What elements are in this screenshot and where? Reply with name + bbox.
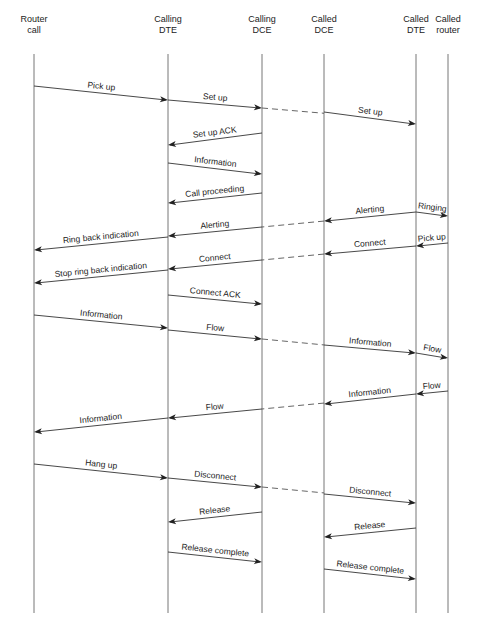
sequence-diagram: RoutercallCallingDTECallingDCECalledDCEC…	[0, 0, 485, 637]
participant-label: Called	[311, 14, 337, 24]
dashed-continuation	[262, 339, 324, 345]
message-label: Alerting	[355, 203, 385, 216]
participant-headers: RoutercallCallingDTECallingDCECalledDCEC…	[20, 14, 460, 35]
message-arrow: Flow	[416, 380, 448, 397]
dashed-continuation	[262, 487, 324, 493]
message-label: Release	[354, 519, 386, 532]
participant-label: DTE	[407, 25, 425, 35]
lifelines	[34, 54, 448, 613]
message-label: Connect	[198, 251, 231, 264]
message-label: Flow	[205, 401, 225, 413]
message-arrow: Set up	[168, 91, 324, 113]
dashed-continuation	[262, 108, 324, 113]
message-arrow: Call proceeding	[168, 183, 262, 205]
participant-called-dce: CalledDCE	[311, 14, 337, 35]
message-arrow: Disconnect	[324, 484, 416, 505]
participant-label: Calling	[248, 14, 276, 24]
message-arrow: Ring back indication	[34, 228, 168, 252]
message-arrow: Information	[34, 411, 168, 434]
message-label: Disconnect	[349, 484, 392, 498]
message-arrow: Information	[324, 385, 416, 406]
message-arrow: Connect ACK	[168, 285, 262, 306]
message-label: Connect	[354, 237, 387, 250]
message-arrow: Connect	[324, 237, 416, 257]
message-arrow: Stop ring back indication	[34, 260, 168, 285]
message-label: Disconnect	[194, 469, 237, 483]
participant-calling-dce: CallingDCE	[248, 14, 276, 35]
message-arrow: Flow	[168, 322, 324, 345]
message-arrow: Set up	[324, 104, 416, 125]
participant-label: call	[27, 25, 41, 35]
message-label: Release	[199, 503, 231, 516]
message-arrow: Information	[324, 335, 416, 355]
participant-router-call: Routercall	[20, 14, 47, 35]
participant-label: Calling	[154, 14, 182, 24]
dashed-continuation	[262, 403, 324, 409]
message-arrow: Connect	[168, 251, 324, 271]
message-label: Hang up	[85, 457, 118, 470]
message-label: Flow	[422, 380, 442, 392]
message-arrow: Release complete	[324, 558, 416, 581]
message-label: Alerting	[200, 218, 230, 231]
dashed-continuation	[262, 254, 324, 260]
message-label: Release complete	[181, 541, 250, 558]
participant-calling-dte: CallingDTE	[154, 14, 182, 35]
message-label: Set up	[203, 91, 229, 103]
message-arrow: Pick up	[416, 231, 448, 248]
participant-called-dte: CalledDTE	[403, 14, 429, 35]
message-arrow: Release	[168, 503, 262, 524]
message-label: Pick up	[417, 231, 446, 244]
message-label: Flow	[206, 322, 226, 334]
participant-called-router: Calledrouter	[435, 14, 461, 35]
message-arrow: Flow	[168, 401, 324, 421]
participant-label: Called	[435, 14, 461, 24]
dashed-continuation	[262, 221, 324, 227]
message-label: Information	[80, 307, 124, 321]
messages: Pick upSet upSet upSet up ACKInformation…	[34, 80, 448, 582]
message-arrow: Information	[34, 307, 168, 330]
message-arrow: Flow	[416, 342, 448, 360]
participant-label: DTE	[159, 25, 177, 35]
participant-label: DCE	[252, 25, 271, 35]
message-arrow: Release	[324, 519, 416, 539]
message-arrow: Set up ACK	[168, 124, 262, 147]
message-arrow: Hang up	[34, 457, 168, 480]
message-label: Release complete	[336, 558, 405, 575]
participant-label: Router	[20, 14, 47, 24]
message-label: Flow	[423, 342, 443, 355]
message-arrow: Disconnect	[168, 469, 324, 493]
message-label: Call proceeding	[185, 183, 245, 199]
message-label: Information	[79, 411, 123, 425]
participant-label: DCE	[314, 25, 333, 35]
message-arrow: Ringing	[416, 200, 448, 218]
message-arrow: Release complete	[168, 541, 262, 564]
message-label: Information	[349, 335, 392, 349]
message-label: Pick up	[87, 80, 116, 93]
message-label: Ring back indication	[62, 228, 139, 245]
participant-label: Called	[403, 14, 429, 24]
message-arrow: Alerting	[168, 218, 324, 238]
message-arrow: Alerting	[324, 203, 416, 223]
message-label: Ringing	[417, 200, 447, 214]
message-label: Set up	[358, 104, 384, 117]
participant-label: router	[436, 25, 460, 35]
message-arrow: Information	[168, 154, 262, 176]
message-label: Stop ring back indication	[54, 260, 147, 279]
message-arrow: Pick up	[34, 80, 168, 103]
